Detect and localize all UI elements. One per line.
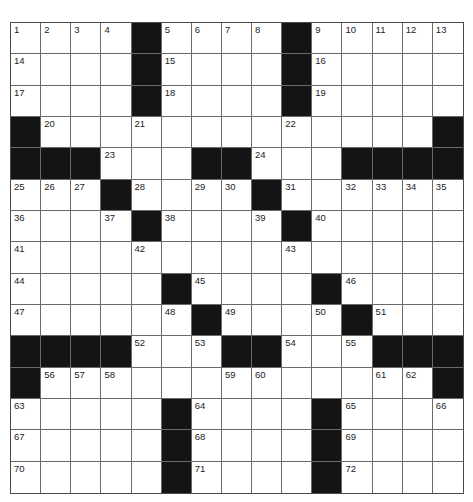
crossword-cell[interactable]	[222, 86, 252, 117]
crossword-cell[interactable]	[373, 54, 403, 85]
crossword-cell[interactable]: 57	[71, 368, 101, 399]
crossword-cell[interactable]	[162, 148, 192, 179]
crossword-cell[interactable]: 43	[282, 242, 312, 273]
crossword-cell[interactable]: 58	[101, 368, 131, 399]
crossword-cell[interactable]	[41, 430, 71, 461]
crossword-cell[interactable]: 7	[222, 23, 252, 54]
crossword-cell[interactable]	[71, 86, 101, 117]
crossword-cell[interactable]	[403, 274, 433, 305]
crossword-cell[interactable]	[222, 430, 252, 461]
crossword-cell[interactable]: 68	[192, 430, 222, 461]
crossword-cell[interactable]: 53	[192, 336, 222, 367]
crossword-cell[interactable]	[282, 305, 312, 336]
crossword-cell[interactable]	[222, 274, 252, 305]
crossword-cell[interactable]: 35	[433, 180, 463, 211]
crossword-cell[interactable]	[192, 54, 222, 85]
crossword-cell[interactable]: 49	[222, 305, 252, 336]
crossword-cell[interactable]	[312, 148, 342, 179]
crossword-cell[interactable]	[403, 242, 433, 273]
crossword-cell[interactable]: 27	[71, 180, 101, 211]
crossword-cell[interactable]	[222, 54, 252, 85]
crossword-cell[interactable]	[222, 211, 252, 242]
crossword-cell[interactable]	[71, 117, 101, 148]
crossword-cell[interactable]	[312, 180, 342, 211]
crossword-cell[interactable]	[41, 399, 71, 430]
crossword-cell[interactable]	[373, 211, 403, 242]
crossword-cell[interactable]	[71, 305, 101, 336]
crossword-cell[interactable]	[373, 430, 403, 461]
crossword-cell[interactable]	[71, 430, 101, 461]
crossword-cell[interactable]: 51	[373, 305, 403, 336]
crossword-cell[interactable]: 41	[11, 242, 41, 273]
crossword-cell[interactable]	[101, 242, 131, 273]
crossword-cell[interactable]: 62	[403, 368, 433, 399]
crossword-cell[interactable]: 47	[11, 305, 41, 336]
crossword-cell[interactable]	[252, 242, 282, 273]
crossword-cell[interactable]: 59	[222, 368, 252, 399]
crossword-cell[interactable]: 23	[101, 148, 131, 179]
crossword-cell[interactable]	[41, 274, 71, 305]
crossword-cell[interactable]	[373, 274, 403, 305]
crossword-cell[interactable]: 46	[342, 274, 372, 305]
crossword-cell[interactable]	[101, 305, 131, 336]
crossword-cell[interactable]: 1	[11, 23, 41, 54]
crossword-cell[interactable]	[282, 462, 312, 493]
crossword-cell[interactable]	[433, 242, 463, 273]
crossword-cell[interactable]	[132, 399, 162, 430]
crossword-cell[interactable]	[192, 368, 222, 399]
crossword-cell[interactable]	[373, 399, 403, 430]
crossword-cell[interactable]	[132, 368, 162, 399]
crossword-cell[interactable]: 25	[11, 180, 41, 211]
crossword-cell[interactable]: 18	[162, 86, 192, 117]
crossword-cell[interactable]: 37	[101, 211, 131, 242]
crossword-cell[interactable]	[433, 430, 463, 461]
crossword-cell[interactable]	[101, 399, 131, 430]
crossword-cell[interactable]	[71, 54, 101, 85]
crossword-cell[interactable]	[101, 54, 131, 85]
crossword-cell[interactable]	[41, 211, 71, 242]
crossword-cell[interactable]	[41, 86, 71, 117]
crossword-cell[interactable]: 26	[41, 180, 71, 211]
crossword-cell[interactable]	[222, 462, 252, 493]
crossword-cell[interactable]: 30	[222, 180, 252, 211]
crossword-cell[interactable]	[433, 462, 463, 493]
crossword-cell[interactable]	[132, 148, 162, 179]
crossword-cell[interactable]: 19	[312, 86, 342, 117]
crossword-cell[interactable]	[222, 399, 252, 430]
crossword-cell[interactable]	[252, 462, 282, 493]
crossword-cell[interactable]	[101, 117, 131, 148]
crossword-cell[interactable]	[252, 54, 282, 85]
crossword-cell[interactable]: 14	[11, 54, 41, 85]
crossword-cell[interactable]	[403, 399, 433, 430]
crossword-cell[interactable]	[312, 117, 342, 148]
crossword-cell[interactable]: 15	[162, 54, 192, 85]
crossword-cell[interactable]	[433, 54, 463, 85]
crossword-cell[interactable]: 67	[11, 430, 41, 461]
crossword-cell[interactable]: 6	[192, 23, 222, 54]
crossword-cell[interactable]: 22	[282, 117, 312, 148]
crossword-cell[interactable]: 36	[11, 211, 41, 242]
crossword-cell[interactable]: 38	[162, 211, 192, 242]
crossword-cell[interactable]	[403, 430, 433, 461]
crossword-cell[interactable]: 40	[312, 211, 342, 242]
crossword-cell[interactable]	[342, 242, 372, 273]
crossword-cell[interactable]	[41, 462, 71, 493]
crossword-cell[interactable]	[403, 211, 433, 242]
crossword-cell[interactable]	[342, 117, 372, 148]
crossword-cell[interactable]	[342, 368, 372, 399]
crossword-cell[interactable]	[132, 430, 162, 461]
crossword-cell[interactable]: 65	[342, 399, 372, 430]
crossword-cell[interactable]	[192, 86, 222, 117]
crossword-cell[interactable]	[252, 274, 282, 305]
crossword-cell[interactable]	[41, 305, 71, 336]
crossword-cell[interactable]: 54	[282, 336, 312, 367]
crossword-cell[interactable]: 55	[342, 336, 372, 367]
crossword-cell[interactable]	[71, 242, 101, 273]
crossword-cell[interactable]	[312, 242, 342, 273]
crossword-cell[interactable]: 29	[192, 180, 222, 211]
crossword-cell[interactable]	[71, 399, 101, 430]
crossword-cell[interactable]: 28	[132, 180, 162, 211]
crossword-cell[interactable]: 13	[433, 23, 463, 54]
crossword-cell[interactable]	[71, 274, 101, 305]
crossword-cell[interactable]: 20	[41, 117, 71, 148]
